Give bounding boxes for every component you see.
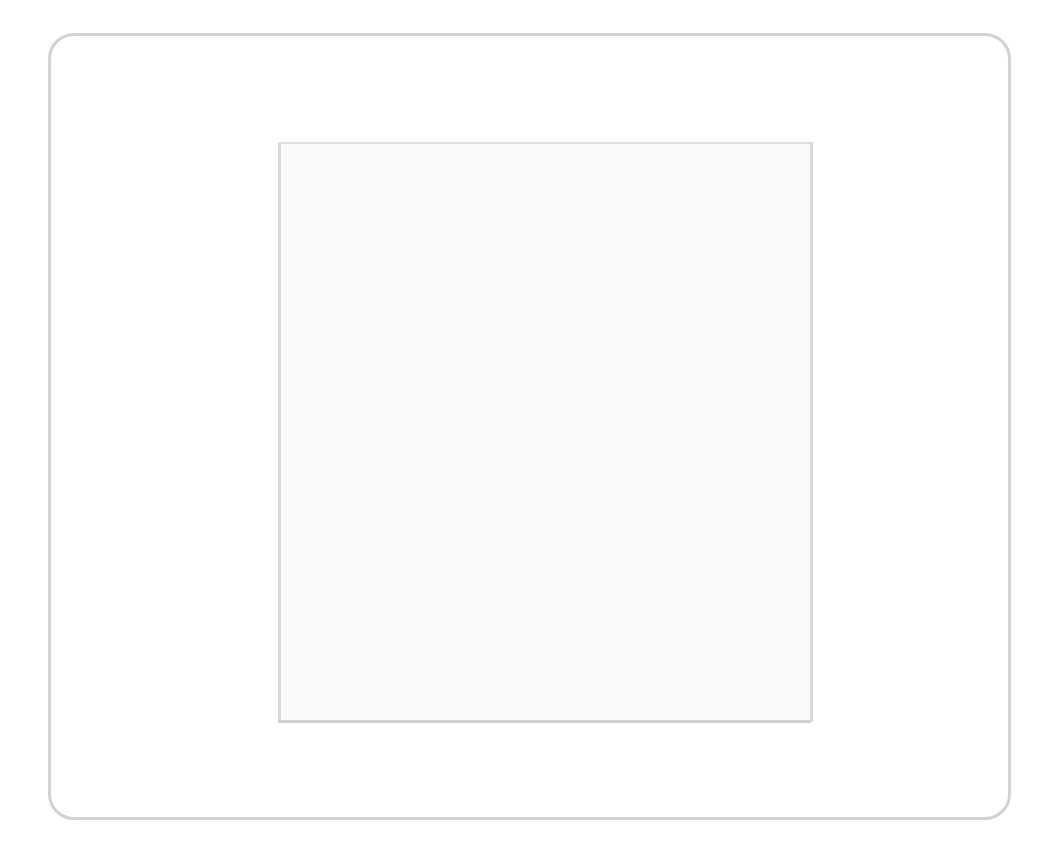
plot-area bbox=[278, 142, 813, 722]
bottom-axis-spine bbox=[278, 720, 811, 723]
bands-svg bbox=[281, 144, 813, 722]
right-axis-spine bbox=[810, 142, 813, 722]
bmi-chart bbox=[0, 0, 1061, 862]
